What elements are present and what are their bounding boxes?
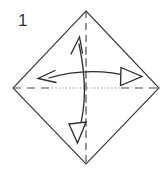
step-number-label: 1: [18, 12, 27, 30]
